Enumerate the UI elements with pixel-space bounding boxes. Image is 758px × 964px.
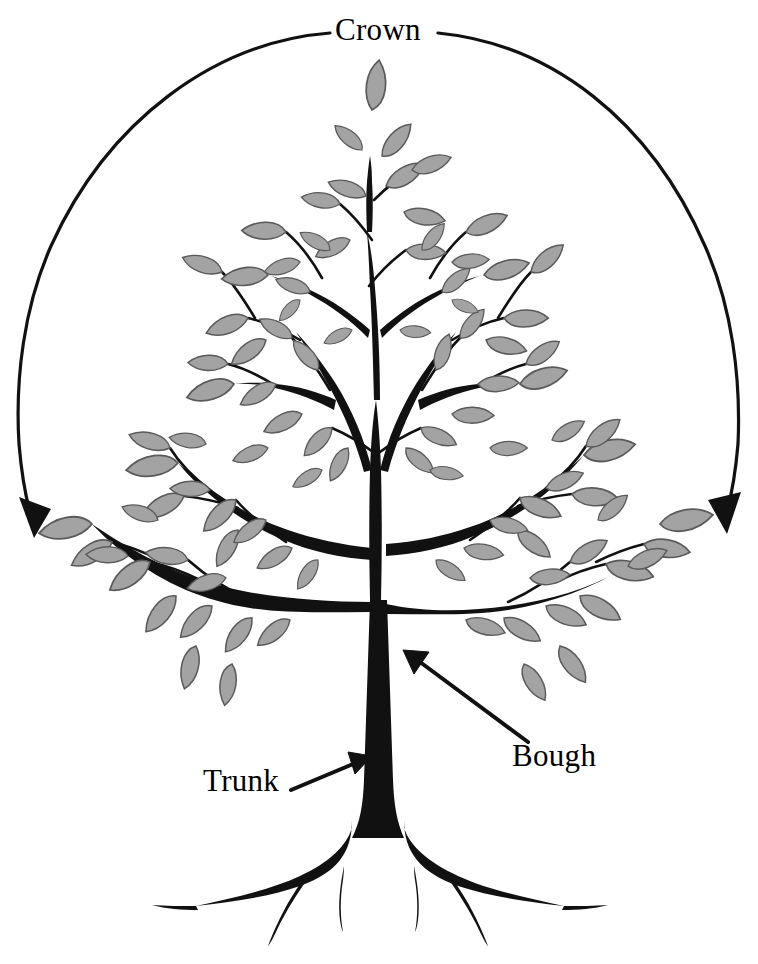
- leaf: [274, 297, 304, 323]
- leaf: [332, 119, 366, 156]
- bough-right-mid: [386, 455, 584, 556]
- root-flare: [152, 820, 608, 946]
- twig-c3: [369, 250, 406, 286]
- leaf: [566, 536, 612, 567]
- leaf: [402, 442, 437, 480]
- bough-leader-line: [416, 659, 528, 742]
- leaf: [462, 538, 505, 567]
- leaf: [226, 335, 271, 368]
- leaf: [221, 265, 268, 288]
- root-ground-left: [152, 905, 198, 910]
- leaf: [548, 418, 588, 445]
- leaf: [290, 557, 325, 592]
- leaf: [217, 614, 260, 655]
- leaf: [522, 338, 565, 369]
- leaf: [253, 543, 296, 572]
- leaf: [660, 509, 713, 531]
- leaf: [180, 246, 224, 282]
- label-trunk: Trunk: [203, 765, 279, 796]
- leaf: [187, 351, 229, 375]
- leaf: [241, 217, 288, 244]
- leaf: [451, 252, 489, 271]
- leaf: [297, 424, 338, 459]
- crown-arrowhead-right: [708, 492, 741, 534]
- label-crown: Crown: [335, 14, 421, 45]
- tree-anatomy-diagram: Crown Bough Trunk: [0, 0, 758, 964]
- leaf: [525, 241, 569, 277]
- leaf: [503, 306, 549, 331]
- apex-shoot: [366, 156, 373, 232]
- leaf: [204, 312, 250, 337]
- leaf: [519, 366, 569, 391]
- boughs: [92, 156, 657, 614]
- leaf: [126, 454, 178, 477]
- trunk-leader: [369, 400, 382, 600]
- leaf: [261, 409, 305, 436]
- bough-right-low: [386, 546, 657, 614]
- leaf: [359, 58, 394, 112]
- leaf: [185, 377, 235, 402]
- leaf: [137, 591, 185, 635]
- leaf: [263, 257, 301, 276]
- leaf: [399, 322, 432, 342]
- bough-arrowhead: [403, 650, 429, 674]
- root-crown-mass: [196, 820, 352, 906]
- leaf: [213, 662, 243, 707]
- trunk-leader-line: [291, 762, 358, 790]
- leaf: [500, 609, 543, 650]
- leaf: [289, 466, 325, 490]
- leaf: [477, 373, 519, 395]
- leaf: [418, 419, 459, 454]
- leader-top: [367, 232, 380, 400]
- root-left-tendril-2: [339, 866, 344, 932]
- figure-caption: [0, 946, 758, 964]
- leaf: [168, 427, 208, 454]
- leaf: [489, 438, 528, 459]
- leaf: [231, 443, 270, 464]
- trunk-shaft: [352, 600, 404, 838]
- leaf: [484, 330, 529, 363]
- trunk: [352, 600, 404, 838]
- leaf: [483, 258, 530, 281]
- root-right-tendril-2: [414, 866, 419, 932]
- leaf: [290, 335, 322, 376]
- root-crown-mass-right: [404, 820, 564, 906]
- leaf: [437, 265, 476, 296]
- leaf: [463, 211, 510, 238]
- leaf: [451, 403, 495, 428]
- leaf: [626, 546, 670, 571]
- leaf: [463, 610, 507, 644]
- leaf: [252, 615, 296, 649]
- label-bough: Bough: [512, 740, 596, 771]
- leaf: [322, 326, 355, 346]
- leaf: [127, 423, 173, 458]
- leaf: [428, 461, 464, 485]
- leaf: [321, 445, 356, 483]
- leaf: [555, 641, 590, 688]
- tree-illustration: [0, 0, 758, 964]
- leaf: [530, 567, 571, 587]
- leaf: [519, 660, 549, 705]
- leader-arrows: [291, 650, 528, 790]
- bough-left-mid: [178, 463, 372, 560]
- root-ground-right: [562, 905, 608, 910]
- leaf: [173, 601, 219, 641]
- leaf: [410, 153, 452, 175]
- leaf: [172, 643, 207, 690]
- leaf: [375, 121, 419, 161]
- leaf: [433, 553, 468, 588]
- leaf: [39, 517, 92, 539]
